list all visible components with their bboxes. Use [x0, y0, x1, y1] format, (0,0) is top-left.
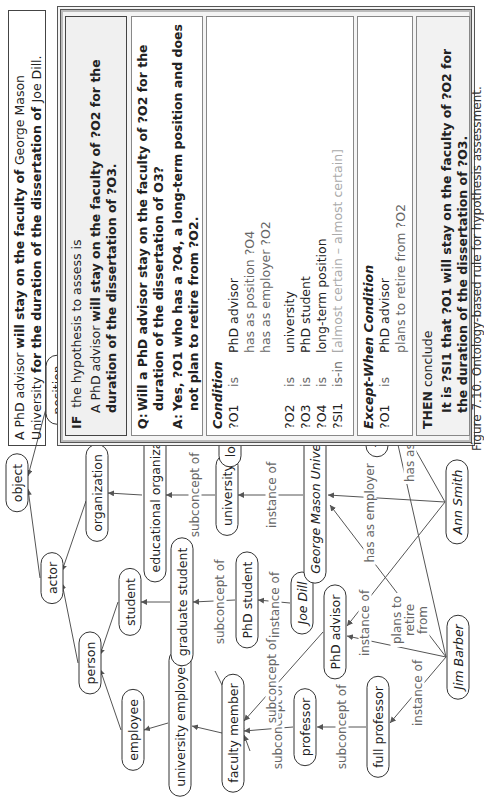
cond-var: ?O3 [298, 387, 314, 429]
node-graduate-student: graduate student [171, 538, 194, 667]
node-object: object [6, 454, 29, 513]
rule-qa-section: Q:Will a PhD advisor stay on the faculty… [131, 16, 203, 436]
condition-row: has as employer ?O2 [258, 23, 274, 429]
node-professor: professor [294, 688, 317, 766]
header-text: Joe Dill. [29, 55, 44, 102]
condition-row: ?O3isPhD student [298, 23, 314, 429]
cond-var: ?O1 [226, 387, 242, 429]
node-ann-smith: Ann Smith [446, 460, 469, 545]
node-jim-barber: Jim Barber [447, 614, 470, 699]
a-label: A: [170, 411, 202, 429]
node-phd-student: PhD student [236, 552, 259, 649]
then-text: conclude [420, 331, 435, 387]
node-phd-advisor: PhD advisor [324, 585, 347, 680]
cond-val: has as employer ?O2 [258, 23, 274, 353]
except-row: ?O1isPhD advisor [377, 23, 393, 429]
a-text: Yes, ?O1 who has a ?O4, a long-term posi… [170, 23, 202, 411]
edge-label-instance: instance of [269, 570, 282, 640]
edge-label-has-as-employer: has as employer [364, 461, 377, 564]
node-organization: organization [86, 444, 109, 542]
edge-label-instance: instance of [412, 658, 425, 728]
rule-except-section: Except-When Condition ?O1isPhD advisor p… [357, 16, 413, 436]
q-text: Will a PhD advisor stay on the faculty o… [135, 23, 167, 411]
except-row: plans to retire from ?O2 [393, 23, 409, 429]
header-text-bold: will stay on the faculty of [12, 165, 27, 349]
cond-var: ?O4 [314, 387, 330, 429]
edge-label-subconcept: subconcept of [266, 637, 279, 726]
edge-label-instance: instance of [359, 588, 372, 658]
if-text: the hypothesis to assess is [69, 240, 84, 408]
cond-rel: is [226, 353, 242, 387]
except-title: Except-When Condition [361, 23, 377, 429]
cond-val: long-term position [314, 23, 330, 353]
rule-then-section: THEN conclude It is ?SI1 that ?O1 will s… [416, 16, 470, 436]
header-text-bold: for the duration of the dissertation of [29, 102, 44, 373]
condition-row: ?O2isuniversity [282, 23, 298, 429]
node-actor: actor [41, 552, 64, 604]
node-person: person [79, 632, 102, 695]
cond-var: ?SI1 [330, 387, 346, 429]
edge-label-subconcept: subconcept of [189, 451, 202, 540]
figure-caption: Figure 7.10. Ontology-based rule for hyp… [470, 86, 484, 451]
conclusion-text: It is ?SI1 that ?O1 will stay on the fac… [439, 23, 471, 429]
node-employee: employee [122, 689, 145, 771]
header-text: A PhD advisor [12, 349, 27, 440]
rule-if-section: IF the hypothesis to assess is A PhD adv… [65, 16, 127, 436]
cond-val: PhD student [298, 23, 314, 353]
cond-val: has as position ?O4 [242, 23, 258, 353]
condition-title: Condition [210, 23, 226, 429]
rule-condition-section: Condition ?O1isPhD advisor has as positi… [206, 16, 354, 436]
condition-row: has as position ?O4 [242, 23, 258, 429]
q-label: Q: [135, 411, 167, 429]
edge-label-instance: instance of [266, 460, 279, 530]
exc-val: PhD advisor [377, 23, 393, 353]
node-full-professor: full professor [367, 676, 390, 778]
hypothesis-text: A PhD advisor [88, 322, 103, 413]
exc-var: ?O1 [377, 387, 393, 429]
if-keyword: IF [69, 416, 84, 429]
edge-label-subconcept: subconcept of [214, 558, 227, 647]
condition-row: ?SI1is-in[almost certain – almost certai… [330, 23, 346, 429]
edge-label-plans-to-retire: plans to retire from [391, 593, 430, 647]
edge-label-subconcept: subconcept of [336, 683, 349, 772]
cond-val: [almost certain – almost certain] [330, 23, 346, 353]
hypothesis-header: A PhD advisor will stay on the faculty o… [8, 10, 46, 446]
node-university-employee: university employee [169, 649, 192, 797]
cond-rel: is [314, 353, 330, 387]
then-keyword: THEN [420, 391, 435, 429]
cond-rel: is [282, 353, 298, 387]
cond-val: PhD advisor [226, 23, 242, 353]
cond-var: ?O2 [282, 387, 298, 429]
condition-row: ?O1isPhD advisor [226, 23, 242, 429]
node-student: student [119, 568, 142, 636]
exc-rel: is [377, 353, 393, 387]
rule-box: IF the hypothesis to assess is A PhD adv… [57, 6, 475, 446]
cond-val: university [282, 23, 298, 353]
cond-rel: is-in [330, 353, 346, 387]
condition-row: ?O4islong-term position [314, 23, 330, 429]
node-faculty-member: faculty member [222, 673, 245, 792]
exc-val: plans to retire from ?O2 [393, 23, 409, 353]
cond-rel: is [298, 353, 314, 387]
